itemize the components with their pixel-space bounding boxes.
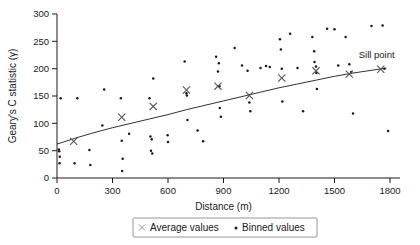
binned-value-point: [186, 119, 189, 122]
binned-value-point: [337, 64, 340, 67]
binned-value-point: [370, 25, 373, 28]
binned-value-point: [167, 141, 170, 144]
y-tick-label: 50: [38, 145, 49, 156]
binned-value-point: [196, 129, 199, 132]
x-tick-label: 600: [160, 185, 176, 196]
binned-value-point: [289, 32, 292, 35]
binned-value-point: [186, 94, 189, 97]
binned-value-point: [281, 67, 284, 70]
y-tick-label: 100: [33, 118, 49, 129]
binned-value-point: [280, 48, 283, 51]
binned-value-point: [333, 28, 336, 31]
binned-value-point: [121, 158, 124, 161]
average-value-marker: [278, 74, 285, 81]
chart-legend: Average values Binned values: [133, 218, 317, 237]
variogram-figure: 0 50 100 150 200 250 300 0 300 600 900 1…: [0, 0, 420, 245]
binned-value-point: [249, 110, 252, 113]
x-tick-label: 1200: [268, 185, 289, 196]
y-axis-title: Geary's C statistic (γ): [7, 49, 18, 144]
binned-value-point: [259, 67, 262, 70]
binned-value-point: [59, 155, 62, 158]
binned-value-point: [120, 97, 123, 100]
binned-value-point: [220, 116, 223, 119]
x-axis-ticks: [57, 178, 390, 183]
dot-marker-icon: [235, 227, 238, 230]
binned-value-point: [152, 77, 155, 80]
binned-value-point: [248, 101, 251, 104]
x-axis-tick-labels: 0 300 600 900 1200 1500 1800: [54, 185, 400, 196]
binned-value-point: [313, 50, 316, 53]
binned-value-point: [88, 149, 91, 152]
binned-value-point: [269, 66, 272, 69]
chart-svg: 0 50 100 150 200 250 300 0 300 600 900 1…: [0, 0, 420, 245]
binned-value-point: [348, 63, 351, 66]
x-axis-title: Distance (m): [195, 201, 252, 212]
x-tick-label: 300: [105, 185, 121, 196]
y-axis-ticks: [52, 14, 57, 178]
binned-value-point: [281, 100, 284, 103]
binned-value-point: [121, 140, 124, 143]
binned-value-point: [302, 110, 305, 113]
binned-value-point: [315, 65, 318, 68]
average-value-marker: [118, 114, 125, 121]
binned-value-point: [381, 24, 384, 27]
binned-value-point: [58, 150, 61, 153]
x-tick-label: 1500: [324, 185, 345, 196]
binned-value-point: [344, 36, 347, 39]
average-values-series: [70, 66, 384, 145]
sill-point-annotation: Sill point: [359, 49, 395, 60]
binned-value-point: [59, 97, 62, 100]
average-value-marker: [150, 103, 157, 110]
binned-value-point: [316, 88, 319, 91]
binned-value-point: [58, 162, 61, 165]
binned-value-point: [183, 60, 186, 63]
binned-value-point: [215, 55, 218, 58]
binned-value-point: [149, 135, 152, 138]
binned-value-point: [121, 170, 124, 173]
binned-value-point: [217, 70, 220, 73]
binned-value-point: [313, 61, 316, 64]
binned-value-point: [296, 67, 299, 70]
binned-value-point: [89, 164, 92, 167]
binned-values-series: [58, 24, 390, 172]
binned-value-point: [246, 70, 249, 73]
x-tick-label: 900: [216, 185, 232, 196]
y-tick-label: 150: [33, 90, 49, 101]
binned-value-point: [202, 140, 205, 143]
fitted-variogram-curve: [57, 68, 386, 144]
y-axis-tick-labels: 0 50 100 150 200 250 300: [33, 8, 49, 183]
legend-item-average-values: Average values: [139, 222, 219, 233]
binned-value-point: [166, 134, 169, 137]
y-tick-label: 250: [33, 36, 49, 47]
binned-value-point: [326, 28, 329, 31]
x-tick-label: 1800: [379, 185, 400, 196]
binned-value-point: [265, 65, 268, 68]
binned-value-point: [311, 36, 314, 39]
legend-label-binned-values: Binned values: [242, 222, 305, 233]
binned-value-point: [128, 132, 131, 135]
x-tick-label: 0: [54, 185, 59, 196]
binned-value-point: [279, 38, 282, 41]
binned-value-point: [103, 88, 106, 91]
y-tick-label: 300: [33, 8, 49, 19]
binned-value-point: [150, 149, 153, 152]
binned-value-point: [150, 138, 153, 141]
binned-value-point: [219, 107, 222, 110]
binned-value-point: [185, 92, 188, 95]
binned-value-point: [101, 124, 104, 127]
binned-value-point: [151, 152, 154, 155]
binned-value-point: [218, 62, 221, 64]
y-tick-label: 0: [44, 172, 49, 183]
binned-value-point: [241, 64, 244, 67]
binned-value-point: [387, 130, 390, 133]
legend-item-binned-values: Binned values: [235, 222, 305, 233]
legend-label-average-values: Average values: [150, 222, 219, 233]
binned-value-point: [76, 97, 79, 100]
plot-data-layer: [57, 24, 389, 172]
binned-value-point: [148, 97, 151, 100]
binned-value-point: [352, 112, 355, 115]
binned-value-point: [73, 162, 76, 165]
binned-value-point: [233, 47, 236, 50]
y-tick-label: 200: [33, 63, 49, 74]
binned-value-point: [383, 67, 386, 70]
